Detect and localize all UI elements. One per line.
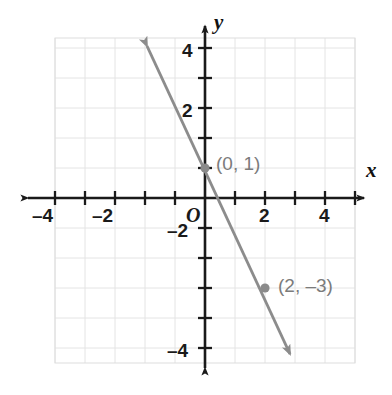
coordinate-plane-figure: –4 –2 2 4 4 2 –2 –4 O x y (0, 1) (2, –3) xyxy=(0,0,392,395)
x-tick-label-4: 4 xyxy=(319,206,330,225)
x-tick-label-2: 2 xyxy=(259,206,270,225)
y-tick-label-neg2: –2 xyxy=(167,221,188,240)
plotted-line xyxy=(147,46,290,354)
x-tick-label-neg4: –4 xyxy=(32,206,53,225)
origin-label: O xyxy=(186,205,200,225)
data-point-0-1 xyxy=(200,163,209,172)
plot-canvas xyxy=(0,0,392,395)
point-label-2-neg3: (2, –3) xyxy=(278,276,333,295)
y-tick-label-4: 4 xyxy=(182,41,193,60)
y-tick-label-neg4: –4 xyxy=(167,341,188,360)
point-label-0-1: (0, 1) xyxy=(216,154,260,173)
data-point-2-neg3 xyxy=(260,283,269,292)
x-tick-label-neg2: –2 xyxy=(92,206,113,225)
x-axis-label: x xyxy=(366,160,377,181)
y-tick-label-2: 2 xyxy=(182,101,193,120)
y-axis-label: y xyxy=(214,12,223,33)
